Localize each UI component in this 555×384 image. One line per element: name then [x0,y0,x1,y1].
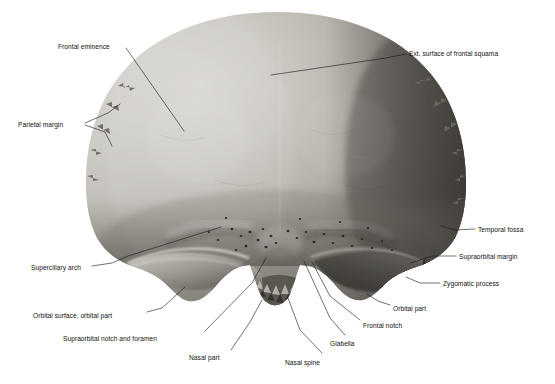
label-nasal-spine: Nasal spine [285,360,320,367]
label-parietal-margin: Parietal margin [18,122,63,129]
label-glabella: Glabella [330,341,355,348]
label-temporal-fossa: Temporal fossa [478,227,523,234]
label-nasal-part: Nasal part [189,355,220,362]
leader-nasal-spine [288,298,322,353]
label-superciliary-arch: Superciliary arch [31,265,81,272]
leader-nasal-part [231,300,262,350]
label-zygomatic-process: Zygomatic process [443,281,499,288]
label-supraorbital-margin: Supraorbital margin [459,254,518,261]
label-orbital-part: Orbital part [393,306,426,313]
anatomical-figure-frontal-bone: Frontal eminenceExt. surface of frontal … [0,0,555,384]
label-orbital-surface-orbital-part: Orbital surface, orbital part [33,313,112,320]
label-supraorbital-notch-foramen: Supraorbital notch and foramen [63,336,157,343]
label-frontal-eminence: Frontal eminence [58,44,110,51]
label-frontal-notch: Frontal notch [363,323,402,330]
label-ext-surface-frontal-squama: Ext. surface of frontal squama [409,51,498,58]
frontal-bone-illustration [0,0,555,384]
leader-zygomatic-process [406,277,440,283]
